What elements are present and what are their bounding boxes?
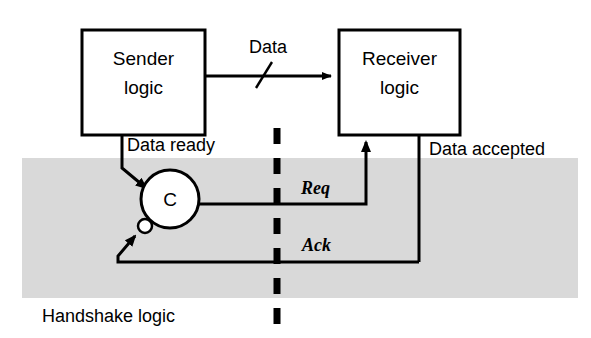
sender-logic-label-line1: Sender <box>82 44 205 73</box>
receiver-logic-label: Receiver logic <box>339 44 460 103</box>
diagram-canvas: Sender logic Receiver logic Data Data re… <box>0 0 591 338</box>
sender-logic-label: Sender logic <box>82 44 205 103</box>
handshake-region-shading <box>22 158 578 298</box>
c-element-inverter-bubble-icon <box>138 219 152 233</box>
data-signal-label: Data <box>249 38 287 56</box>
handshake-logic-region-label: Handshake logic <box>42 307 175 325</box>
sender-logic-label-line2: logic <box>82 73 205 102</box>
req-signal-label: Req <box>301 179 330 197</box>
ack-signal-label: Ack <box>302 236 331 254</box>
receiver-logic-label-line1: Receiver <box>339 44 460 73</box>
data-accepted-signal-label: Data accepted <box>429 140 545 158</box>
data-ready-signal-label: Data ready <box>127 136 215 154</box>
c-element-label: C <box>152 190 188 209</box>
receiver-logic-label-line2: logic <box>339 73 460 102</box>
